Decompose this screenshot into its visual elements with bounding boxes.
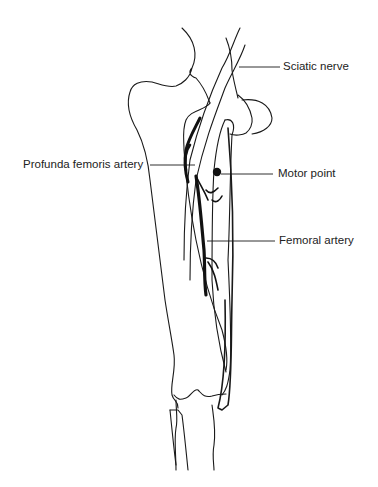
- motor-point-dot: [213, 168, 221, 176]
- label-femoral-artery: Femoral artery: [279, 235, 354, 247]
- label-sciatic-nerve: Sciatic nerve: [283, 61, 349, 73]
- label-profunda-femoris-artery: Profunda femoris artery: [23, 159, 143, 171]
- femur-outline: [128, 28, 210, 408]
- anatomy-diagram: Sciatic nerve Profunda femoris artery Mo…: [0, 0, 378, 487]
- label-motor-point: Motor point: [278, 168, 336, 180]
